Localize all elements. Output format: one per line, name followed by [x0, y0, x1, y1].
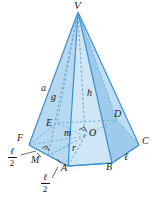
- leader-half-side-bottom: [52, 167, 58, 178]
- half-side-bottom-denominator: 2: [38, 185, 52, 194]
- label-vertex-E: E: [46, 118, 52, 128]
- label-vertex-A: A: [61, 163, 67, 173]
- label-side-length: ℓ: [124, 152, 128, 162]
- label-half-side-bottom: ℓ 2: [38, 173, 52, 194]
- label-vertex-F: F: [17, 133, 23, 143]
- label-height-h: h: [87, 88, 92, 98]
- right-angle-dot-O: [82, 130, 83, 131]
- label-vertex-B: B: [106, 162, 112, 172]
- label-apothem-m: m: [64, 128, 71, 138]
- pyramid-drawing: [0, 0, 154, 199]
- label-radius-r: r: [72, 143, 76, 153]
- label-center-O: O: [89, 128, 96, 138]
- half-side-bottom-numerator: ℓ: [38, 173, 52, 182]
- label-half-side-left: ℓ 2: [5, 147, 19, 168]
- right-angle-dot-M: [45, 148, 46, 149]
- geometry-figure: V a g h D E F m O r C ℓ M A B ℓ 2 ℓ 2: [0, 0, 154, 199]
- label-vertex-V: V: [74, 0, 81, 11]
- label-apothem-slant-g: g: [51, 92, 56, 102]
- label-vertex-C: C: [142, 136, 149, 146]
- label-slant-height-a: a: [41, 83, 46, 93]
- half-side-left-numerator: ℓ: [5, 147, 19, 156]
- label-midpoint-M: M: [31, 155, 39, 165]
- half-side-left-denominator: 2: [5, 159, 19, 168]
- label-vertex-D: D: [114, 109, 121, 119]
